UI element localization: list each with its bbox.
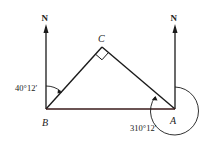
side-ca bbox=[102, 47, 175, 109]
angle-label-a: 310°12′ bbox=[130, 123, 157, 133]
north-label-b: N bbox=[42, 13, 49, 23]
point-label-a: A bbox=[169, 115, 177, 126]
side-bc bbox=[46, 47, 102, 109]
angle-label-b: 40°12′ bbox=[15, 83, 37, 93]
north-label-a: N bbox=[171, 13, 178, 23]
bearing-diagram: N N C B A 40°12′ 310°12′ bbox=[0, 0, 213, 145]
north-arrow-b bbox=[44, 24, 49, 109]
point-label-b: B bbox=[42, 117, 48, 128]
right-angle-marker bbox=[96, 53, 109, 60]
point-label-c: C bbox=[98, 33, 105, 44]
angle-arc-a-arrowhead bbox=[152, 96, 158, 101]
north-arrow-a bbox=[173, 24, 178, 109]
